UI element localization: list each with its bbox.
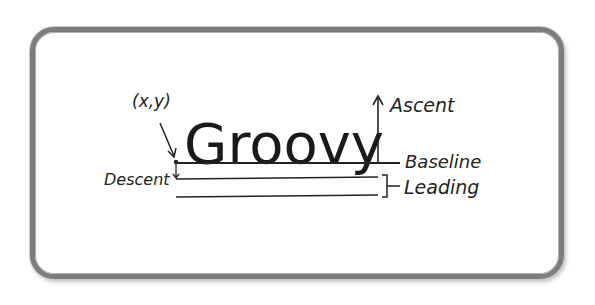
descent-arrow-icon [173, 164, 179, 178]
origin-dot [174, 160, 178, 164]
descent-line [176, 177, 378, 179]
baseline-label: Baseline [405, 151, 481, 172]
leading-label: Leading [404, 176, 479, 198]
leading-bracket-icon [382, 175, 400, 197]
sample-word: Groovy [184, 111, 384, 176]
ascent-label: Ascent [388, 94, 456, 116]
descent-label: Descent [104, 170, 170, 189]
font-metrics-diagram: Groovy (x,y) Ascent Baseline Descent Lea… [0, 0, 595, 305]
origin-label: (x,y) [132, 91, 171, 111]
leading-line [176, 195, 378, 197]
origin-arrow-icon [160, 123, 176, 157]
